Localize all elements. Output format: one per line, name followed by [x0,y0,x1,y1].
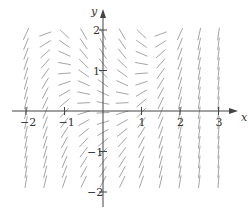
slope-segment [79,70,89,77]
slope-segment [119,147,126,157]
y-axis-arrow-icon [100,9,106,18]
slope-segment [157,69,164,79]
slope-segment [155,32,166,36]
slope-segment [42,69,49,79]
slope-segment [119,157,125,167]
slope-segment [136,81,147,85]
slope-segment [40,41,50,47]
slope-segment [139,156,144,167]
slope-segment [158,107,163,118]
slope-segment [24,38,29,49]
x-tick-label: −2 [20,116,36,129]
slope-segment [156,50,165,58]
y-tick-label: −1 [87,146,103,159]
slope-field-diagram: x y −2−1123 21−1−2 [0,0,248,214]
slope-segment [60,99,69,107]
slope-segment [60,30,69,38]
slope-segment [119,39,126,49]
slope-segment [24,29,29,40]
slope-segment [178,48,182,59]
slope-segment [80,39,87,49]
slope-segment [62,166,66,177]
slope-segment [139,166,143,177]
slope-segment [178,29,183,40]
slope-segment [78,103,90,104]
x-axis-label: x [241,111,248,124]
slope-segment [119,29,125,39]
slope-segment [137,30,146,38]
slope-segment [44,176,47,188]
slope-segment [78,111,89,115]
slope-segment [178,38,183,49]
slope-segment [137,40,147,47]
slope-segment [43,127,47,138]
slope-segment [43,107,48,118]
slope-segment [136,63,148,65]
y-tick-label: 2 [93,24,100,37]
slope-segment [79,59,88,67]
slope-segment [117,120,127,126]
slope-segment [43,98,48,109]
slope-segment [156,41,166,47]
slope-segment [136,90,146,96]
slope-segment [117,81,128,86]
axes: x y −2−1123 21−1−2 [12,5,248,207]
slope-segment [81,157,87,167]
slope-segment [79,129,88,137]
x-axis-arrow-icon [229,108,238,114]
slope-segment [40,32,51,36]
slope-segment [41,50,50,58]
slope-segment [140,176,144,187]
slope-segment [59,51,70,56]
slope-segment [42,88,48,99]
x-axis-ticks: −2−1123 [20,107,223,129]
slope-segment [59,63,71,65]
slope-segment [62,156,67,167]
slope-segment [60,40,70,47]
slope-segment [24,48,28,59]
slope-segment [136,73,148,74]
x-tick-label: −1 [59,116,75,129]
slope-segment [159,127,163,138]
slope-segment [159,176,162,188]
slope-segment [78,92,90,94]
slope-segment [136,51,147,56]
slope-segment [62,137,68,148]
slope-segment [139,137,145,148]
slope-segment [117,70,127,77]
slope-segment [118,49,126,58]
slope-segment [118,138,126,147]
slope-segments [24,28,220,188]
slope-segment [80,49,88,58]
slope-segment [119,167,125,178]
slope-segment [137,99,146,107]
slope-segment [81,167,87,178]
slope-segment [63,176,67,187]
x-tick-label: 1 [139,116,146,129]
y-tick-label: −2 [87,186,103,199]
slope-segment [41,59,49,68]
slope-segment [59,73,71,74]
x-tick-label: 2 [177,116,184,129]
slope-segment [62,147,67,158]
slope-segment [158,98,163,109]
slope-segment [116,103,128,104]
slope-segment [79,120,89,126]
x-tick-label: 3 [216,116,223,129]
slope-segment [159,117,163,128]
slope-segment [42,78,48,88]
slope-segment [139,147,144,158]
slope-segment [81,176,86,187]
slope-segment [157,59,165,68]
slope-segment [158,88,164,99]
slope-segment [59,90,69,96]
slope-segment [78,81,89,86]
y-axis-label: y [90,5,98,18]
slope-segment [118,129,127,137]
slope-segment [178,58,182,69]
slope-segment [24,58,28,69]
slope-segment [43,117,47,128]
y-tick-label: 1 [93,65,100,78]
slope-segment [116,92,128,94]
slope-segment [81,29,87,39]
